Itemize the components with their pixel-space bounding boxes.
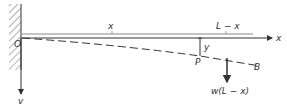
v-axis-label: v xyxy=(18,96,24,106)
x-axis-label: x xyxy=(275,33,282,43)
remaining-length-label: L − x xyxy=(216,21,240,31)
point-b-label: B xyxy=(254,62,260,72)
deflection-label: y xyxy=(203,42,210,52)
point-p-label: P xyxy=(195,57,201,67)
load-label: w(L − x) xyxy=(211,86,249,96)
deflected-curve xyxy=(22,38,260,66)
origin-label: O xyxy=(14,39,21,49)
x-dim-label: x xyxy=(107,21,114,31)
wall-hatch xyxy=(9,4,21,70)
cantilever-diagram: O x L − x x v y P B w(L − x) xyxy=(0,0,287,106)
